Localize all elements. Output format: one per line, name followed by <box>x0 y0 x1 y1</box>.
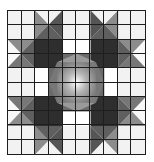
quilt-block <box>7 10 146 155</box>
quilt-grid <box>7 10 146 155</box>
